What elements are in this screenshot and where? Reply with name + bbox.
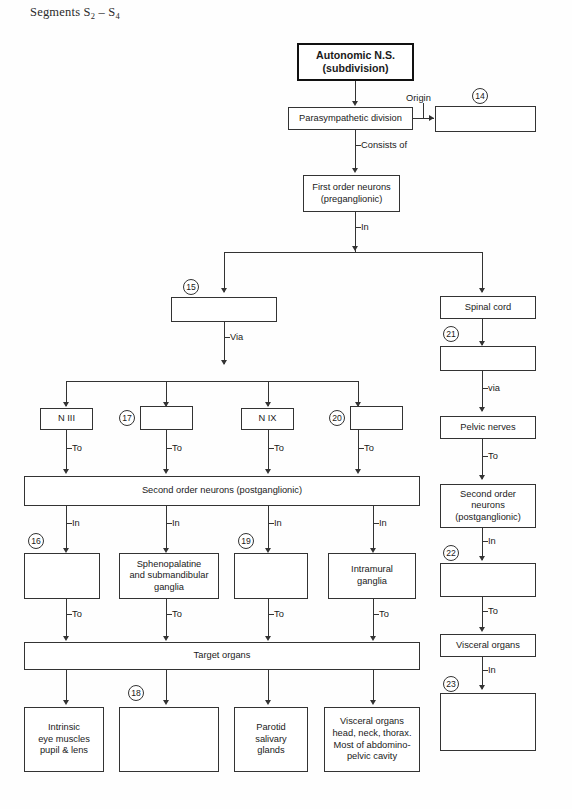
line-pelvic-to-second-order <box>482 439 483 479</box>
arrowhead-17-to <box>163 469 169 474</box>
box-visceral-bottom-line4: pelvic cavity <box>332 751 411 763</box>
line-16-to-target <box>66 599 67 637</box>
box-visceral-bottom-line3: Most of abdomino- <box>332 740 411 752</box>
edge-label-via-right: via <box>488 383 500 393</box>
box-blank-17 <box>140 406 193 430</box>
box-parasympathetic-division-label: Parasympathetic division <box>299 113 402 125</box>
arrowhead-parasym-to-first-order <box>352 168 358 173</box>
box-sphenopalatine-line1: Sphenopalatine <box>129 559 208 571</box>
arrowhead-bus-to-n3 <box>63 402 69 407</box>
box-blank-20 <box>350 406 403 430</box>
box-blank-16 <box>24 553 100 599</box>
edge-label-in-intramural: In <box>379 518 387 528</box>
line-ans-to-parasym <box>355 81 356 102</box>
line-second-order-to-intramural <box>373 506 374 551</box>
number-circle-18: 18 <box>128 685 144 701</box>
arrowhead-bus-left-leg <box>221 288 227 293</box>
box-parasympathetic-division: Parasympathetic division <box>288 107 413 130</box>
box-parotid-line3: glands <box>255 745 287 757</box>
edge-label-to-intramural: To <box>379 609 389 619</box>
box-pelvic-nerves: Pelvic nerves <box>440 416 536 439</box>
bus-first-order-split <box>224 252 482 253</box>
arrowhead-spheno-to-target <box>163 636 169 641</box>
line-target-to-18 <box>166 670 167 703</box>
box-n9-label: N IX <box>258 413 276 425</box>
line-bus-right-leg <box>482 252 483 292</box>
box-autonomic-ns-line1: Autonomic N.S. <box>316 49 395 62</box>
number-circle-14: 14 <box>472 88 488 104</box>
edge-label-in-16: In <box>72 518 80 528</box>
box-second-order-right-line3: (postganglionic) <box>455 512 521 524</box>
box-pelvic-nerves-label: Pelvic nerves <box>460 422 515 434</box>
box-first-order-neurons-line2: (preganglionic) <box>312 194 391 206</box>
box-second-order-neurons-wide-label: Second order neurons (postganglionic) <box>142 485 302 497</box>
box-intramural-line2: ganglia <box>351 576 393 588</box>
number-circle-21: 21 <box>443 326 459 342</box>
arrowhead-19-to-target <box>265 636 271 641</box>
box-first-order-neurons-line1: First order neurons <box>312 182 391 194</box>
box-intrinsic-line2: eye muscles <box>38 734 90 746</box>
line-second-order-to-19 <box>268 506 269 551</box>
edge-label-to-n9: To <box>274 443 284 453</box>
arrowhead-22-to-visceral <box>479 627 485 632</box>
arrowhead-n9-to <box>265 469 271 474</box>
box-intrinsic-line3: pupil & lens <box>38 745 90 757</box>
edge-label-to-n3: To <box>72 443 82 453</box>
box-second-order-right-line1: Second order <box>455 489 521 501</box>
line-20-to-second-order <box>358 430 359 472</box>
arrowhead-target-to-intrinsic <box>63 700 69 705</box>
edge-label-via-left: Via <box>230 332 243 342</box>
box-second-order-neurons-right: Second order neurons (postganglionic) <box>440 484 536 528</box>
box-parotid-line2: salivary <box>255 734 287 746</box>
arrowhead-first-order-in <box>352 246 358 251</box>
arrowhead-target-to-visceral <box>370 700 376 705</box>
arrowhead-visceral-to-23 <box>479 685 485 690</box>
box-spinal-cord-label: Spinal cord <box>465 302 512 314</box>
number-circle-23: 23 <box>443 676 459 692</box>
box-blank-14 <box>435 106 536 132</box>
edge-label-to-16: To <box>72 609 82 619</box>
number-circle-20: 20 <box>329 410 345 426</box>
edge-label-origin: Origin <box>406 93 431 103</box>
line-target-to-parotid <box>268 670 269 703</box>
page-title: Segments S2 – S4 <box>30 5 120 20</box>
line-intramural-to-target <box>373 599 374 637</box>
box-intramural-line1: Intramural <box>351 564 393 576</box>
box-sphenopalatine-line3: ganglia <box>129 582 208 594</box>
arrowhead-16-to-target <box>63 636 69 641</box>
bus-nerve-distribution <box>66 381 358 382</box>
line-15-to-nerve-bus <box>224 322 225 364</box>
line-spheno-to-target <box>166 599 167 637</box>
box-blank-22 <box>440 563 536 597</box>
line-target-to-intrinsic <box>66 670 67 703</box>
box-sphenopalatine-line2: and submandibular <box>129 570 208 582</box>
line-origin-tick <box>423 103 424 118</box>
arrowhead-origin-to-box14 <box>429 115 434 121</box>
arrowhead-second-order-right-in <box>479 556 485 561</box>
line-second-order-to-spheno <box>166 506 167 551</box>
box-blank-23 <box>440 693 536 751</box>
edge-label-to-spheno: To <box>172 609 182 619</box>
arrowhead-bus-right-leg <box>479 288 485 293</box>
page-title-prefix: Segments S <box>30 5 91 19</box>
number-circle-22: 22 <box>443 545 459 561</box>
line-bus-left-leg <box>224 252 225 292</box>
line-target-to-visceral <box>373 670 374 703</box>
box-spinal-cord: Spinal cord <box>440 296 536 319</box>
line-n3-to-second-order <box>66 430 67 472</box>
box-n3-label: N III <box>58 413 75 425</box>
box-visceral-organs-right: Visceral organs <box>440 634 536 657</box>
box-second-order-neurons-wide: Second order neurons (postganglionic) <box>24 476 420 506</box>
line-21-to-pelvic <box>482 371 483 411</box>
edge-label-in-23: In <box>488 665 496 675</box>
box-parotid-line1: Parotid <box>255 722 287 734</box>
edge-label-in-22: In <box>488 536 496 546</box>
box-blank-18 <box>119 707 219 772</box>
page-title-dash: – S <box>95 5 115 19</box>
arrowhead-intramural-to-target <box>370 636 376 641</box>
number-circle-16: 16 <box>28 533 44 549</box>
edge-label-to-19: To <box>274 609 284 619</box>
box-autonomic-ns-line2: (subdivision) <box>316 62 395 75</box>
edge-label-consists-of: Consists of <box>361 140 407 150</box>
arrowhead-target-to-parotid <box>265 700 271 705</box>
